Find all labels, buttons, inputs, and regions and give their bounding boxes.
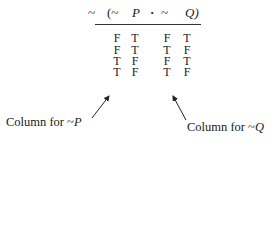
label-column-p: Column for ~P	[6, 115, 82, 129]
label-text: Column for	[6, 115, 67, 129]
label-var: P	[74, 115, 82, 129]
arrow-to-q-column	[173, 96, 186, 120]
arrow-to-p-column	[92, 96, 109, 118]
label-var: Q	[255, 120, 264, 134]
label-tilde: ~	[67, 115, 74, 129]
label-column-q: Column for ~Q	[187, 120, 264, 134]
label-text: Column for	[187, 120, 248, 134]
label-tilde: ~	[248, 120, 255, 134]
